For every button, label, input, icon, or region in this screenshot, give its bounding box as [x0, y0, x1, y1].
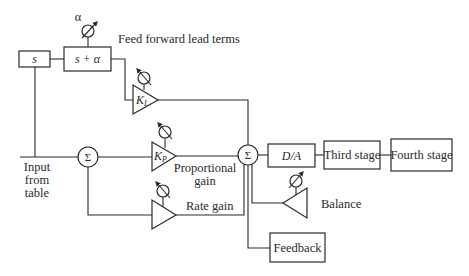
sigma-icon: Σ: [245, 149, 251, 161]
da-block: D/A: [268, 144, 315, 167]
s-block: s: [19, 51, 50, 67]
kp-amplifier: KP: [152, 142, 176, 171]
kp-gain-dial-icon[interactable]: [159, 124, 172, 148]
feed-forward-label: Feed forward lead terms: [118, 32, 240, 46]
svg-text:from: from: [25, 173, 50, 187]
summing-junction-2: Σ: [238, 145, 258, 165]
control-diagram: s s + α α Feed forward lead terms KL Σ I…: [0, 0, 469, 276]
fourth-stage-block: Fourth stage: [390, 139, 453, 171]
third-stage-label: Third stage: [324, 148, 381, 162]
s-block-label: s: [32, 52, 37, 66]
rate-gain-dial-icon[interactable]: [157, 183, 170, 207]
third-stage-block: Third stage: [324, 141, 381, 169]
kl-amplifier: KL: [133, 85, 158, 114]
s-plus-alpha-label: s + α: [75, 52, 101, 66]
proportional-gain-label: Proportional gain: [174, 161, 237, 188]
input-label: Input from table: [24, 160, 51, 200]
s-plus-alpha-block: s + α: [64, 47, 111, 71]
alpha-label: α: [75, 10, 82, 24]
rate-gain-label: Rate gain: [186, 199, 234, 213]
rate-amplifier: [152, 200, 176, 229]
svg-text:gain: gain: [194, 174, 216, 188]
summing-junction-1: Σ: [78, 147, 98, 167]
svg-text:Proportional: Proportional: [174, 161, 237, 175]
da-label: D/A: [281, 149, 302, 163]
svg-text:Input: Input: [24, 160, 51, 174]
balance-label: Balance: [321, 197, 362, 211]
feedback-label: Feedback: [274, 241, 323, 255]
svg-text:table: table: [25, 186, 50, 200]
feedback-block: Feedback: [270, 233, 325, 262]
kl-gain-dial-icon[interactable]: [138, 70, 151, 90]
alpha-dial-icon[interactable]: [82, 23, 96, 47]
fourth-stage-label: Fourth stage: [390, 148, 453, 162]
balance-amplifier: [283, 188, 307, 218]
sigma-icon: Σ: [85, 151, 91, 163]
